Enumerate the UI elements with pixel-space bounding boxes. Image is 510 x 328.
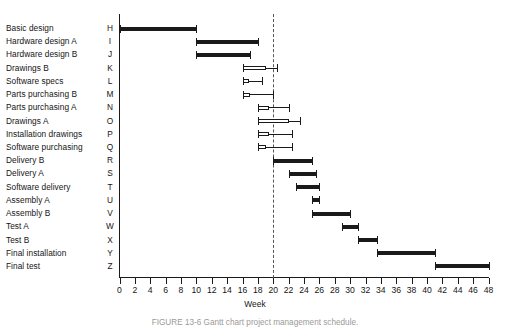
x-tick-44 <box>458 278 459 284</box>
bar-start-cap <box>273 157 274 165</box>
bar-end-cap <box>358 223 359 231</box>
x-tick-42 <box>442 278 443 284</box>
x-tick-8 <box>181 278 182 284</box>
bar-end-cap <box>289 104 290 112</box>
bar-end-cap <box>250 51 251 59</box>
bar-start-cap <box>312 210 313 218</box>
bar-duration <box>243 66 266 70</box>
x-tick-label-48: 48 <box>478 285 500 295</box>
gantt-bar-x[interactable] <box>0 235 510 246</box>
bar-end-cap <box>316 170 317 178</box>
bar-end-cap <box>435 249 436 257</box>
bar-start-cap <box>196 38 197 46</box>
bar-start-cap <box>435 262 436 270</box>
bar-end-cap <box>258 38 259 46</box>
bar-duration <box>258 106 270 110</box>
bar-start-cap <box>196 51 197 59</box>
x-tick-20 <box>273 278 274 284</box>
gantt-bar-o[interactable] <box>0 116 510 127</box>
bar-start-cap <box>289 170 290 178</box>
gantt-bar-v[interactable] <box>0 208 510 219</box>
bar-duration <box>312 212 350 216</box>
x-tick-6 <box>166 278 167 284</box>
gantt-bar-s[interactable] <box>0 168 510 179</box>
gantt-bar-m[interactable] <box>0 89 510 100</box>
x-tick-46 <box>473 278 474 284</box>
bar-duration <box>258 119 289 123</box>
figure-caption: FIGURE 13-6 Gantt chart project manageme… <box>0 318 510 327</box>
gantt-chart: Basic designHHardware design AIHardware … <box>0 0 510 328</box>
bar-start-cap <box>258 117 259 125</box>
bar-duration <box>289 172 316 176</box>
bar-duration <box>312 198 320 202</box>
bar-duration <box>243 93 251 97</box>
x-tick-36 <box>396 278 397 284</box>
x-tick-34 <box>381 278 382 284</box>
x-tick-28 <box>335 278 336 284</box>
bar-end-cap <box>300 117 301 125</box>
x-tick-10 <box>196 278 197 284</box>
x-axis-title: Week <box>0 299 510 309</box>
bar-end-cap <box>273 91 274 99</box>
bar-duration <box>196 40 258 44</box>
bar-duration <box>258 145 266 149</box>
x-tick-26 <box>319 278 320 284</box>
bar-end-cap <box>292 143 293 151</box>
bar-start-cap <box>377 249 378 257</box>
bar-duration <box>258 132 270 136</box>
bar-duration <box>120 27 197 31</box>
gantt-bar-r[interactable] <box>0 155 510 166</box>
bar-duration <box>196 53 250 57</box>
bar-end-cap <box>292 130 293 138</box>
bar-end-cap <box>489 262 490 270</box>
gantt-bar-h[interactable] <box>0 23 510 34</box>
bar-end-cap <box>312 157 313 165</box>
x-tick-32 <box>366 278 367 284</box>
x-tick-14 <box>227 278 228 284</box>
x-tick-48 <box>489 278 490 284</box>
x-tick-2 <box>135 278 136 284</box>
x-tick-22 <box>289 278 290 284</box>
bar-start-cap <box>243 64 244 72</box>
bar-end-cap <box>319 183 320 191</box>
bar-start-cap <box>243 77 244 85</box>
bar-start-cap <box>312 196 313 204</box>
bar-end-cap <box>377 236 378 244</box>
bar-duration <box>296 185 319 189</box>
x-tick-12 <box>212 278 213 284</box>
bar-end-cap <box>262 77 263 85</box>
bar-duration <box>377 251 435 255</box>
gantt-bar-i[interactable] <box>0 36 510 47</box>
x-tick-18 <box>258 278 259 284</box>
bar-duration <box>273 159 311 163</box>
x-tick-40 <box>427 278 428 284</box>
bar-duration <box>435 264 489 268</box>
bar-start-cap <box>120 25 121 33</box>
gantt-bar-y[interactable] <box>0 248 510 259</box>
gantt-bar-z[interactable] <box>0 261 510 272</box>
bar-start-cap <box>243 91 244 99</box>
bar-duration <box>358 238 377 242</box>
x-tick-38 <box>412 278 413 284</box>
gantt-bar-k[interactable] <box>0 63 510 74</box>
x-tick-24 <box>304 278 305 284</box>
x-tick-16 <box>243 278 244 284</box>
x-tick-0 <box>120 278 121 284</box>
x-tick-4 <box>150 278 151 284</box>
gantt-bar-q[interactable] <box>0 142 510 153</box>
x-tick-30 <box>350 278 351 284</box>
bar-end-cap <box>350 210 351 218</box>
bar-end-cap <box>277 64 278 72</box>
bar-end-cap <box>319 196 320 204</box>
gantt-bar-p[interactable] <box>0 129 510 140</box>
gantt-bar-t[interactable] <box>0 182 510 193</box>
bar-duration <box>342 225 357 229</box>
bar-start-cap <box>342 223 343 231</box>
gantt-bar-w[interactable] <box>0 221 510 232</box>
gantt-bar-n[interactable] <box>0 102 510 113</box>
gantt-bar-l[interactable] <box>0 76 510 87</box>
gantt-bar-u[interactable] <box>0 195 510 206</box>
gantt-bar-j[interactable] <box>0 49 510 60</box>
bar-start-cap <box>258 130 259 138</box>
bar-start-cap <box>258 143 259 151</box>
